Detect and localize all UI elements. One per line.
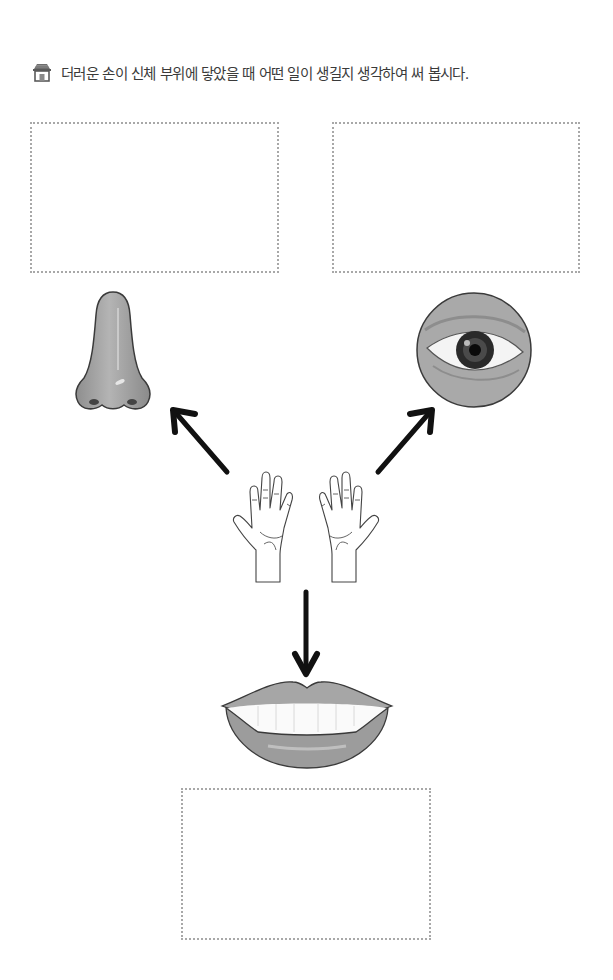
- answer-box-nose[interactable]: [30, 122, 279, 273]
- arrow-to-mouth-icon: [290, 588, 322, 680]
- nose-icon: [72, 290, 154, 412]
- house-icon: [31, 61, 53, 83]
- arrow-to-eye-icon: [370, 400, 440, 480]
- eye-icon: [415, 290, 533, 410]
- lips-icon: [218, 676, 396, 772]
- answer-box-mouth[interactable]: [181, 788, 431, 940]
- instruction-text: 더러운 손이 신체 부위에 닿았을 때 어떤 일이 생길지 생각하여 써 봅시다…: [61, 62, 469, 83]
- arrow-to-nose-icon: [165, 400, 235, 480]
- answer-box-eye[interactable]: [332, 122, 580, 273]
- instruction: 더러운 손이 신체 부위에 닿았을 때 어떤 일이 생길지 생각하여 써 봅시다…: [31, 60, 469, 84]
- dirty-hands-icon: [232, 470, 380, 584]
